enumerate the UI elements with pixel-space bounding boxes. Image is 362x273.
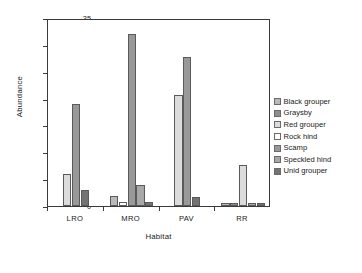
- x-tick-mark: [159, 207, 160, 211]
- bar: [221, 203, 229, 206]
- bar: [145, 202, 153, 206]
- x-tick-label: LRO: [52, 214, 98, 223]
- legend-label: Speckled hind: [284, 156, 332, 164]
- legend-label: Black grouper: [284, 98, 331, 106]
- legend-item: Red grouper: [274, 119, 362, 131]
- x-tick-mark: [214, 207, 215, 211]
- legend-item: Unid grouper: [274, 166, 362, 178]
- bar: [128, 34, 136, 206]
- chart-legend: Black grouperGraysbyRed grouperRock hind…: [274, 96, 362, 177]
- legend-item: Scamp: [274, 142, 362, 154]
- legend-label: Rock hind: [284, 133, 318, 141]
- bar: [72, 104, 80, 206]
- x-tick-label: RR: [219, 214, 265, 223]
- bar: [192, 197, 200, 206]
- x-tick-label: PAV: [163, 214, 209, 223]
- bar: [174, 95, 182, 206]
- legend-item: Speckled hind: [274, 154, 362, 166]
- x-axis-label: Habitat: [47, 232, 270, 241]
- legend-swatch-icon: [274, 145, 281, 152]
- legend-item: Black grouper: [274, 96, 362, 108]
- legend-swatch-icon: [274, 156, 281, 163]
- legend-item: Rock hind: [274, 131, 362, 143]
- legend-label: Red grouper: [284, 121, 326, 129]
- legend-label: Scamp: [284, 144, 308, 152]
- bar: [119, 202, 127, 206]
- bar: [136, 185, 144, 206]
- bar: [257, 203, 265, 206]
- legend-label: Graysby: [284, 109, 312, 117]
- bar: [230, 203, 238, 206]
- legend-swatch-icon: [274, 98, 281, 105]
- bar: [81, 190, 89, 206]
- legend-item: Graysby: [274, 108, 362, 120]
- plot-area: [47, 19, 270, 207]
- x-tick-mark: [103, 207, 104, 211]
- legend-swatch-icon: [274, 168, 281, 175]
- bar-chart-figure: Abundance 05101520253035 LROMROPAVRR Hab…: [0, 0, 362, 273]
- bars-layer: [48, 20, 269, 206]
- y-axis-label: Abundance: [15, 57, 24, 137]
- bar: [248, 203, 256, 206]
- x-tick-label: MRO: [108, 214, 154, 223]
- bar: [183, 57, 191, 206]
- bar: [110, 196, 118, 206]
- bar: [63, 174, 71, 206]
- legend-swatch-icon: [274, 121, 281, 128]
- legend-swatch-icon: [274, 110, 281, 117]
- bar: [239, 165, 247, 206]
- legend-label: Unid grouper: [284, 167, 328, 175]
- legend-swatch-icon: [274, 133, 281, 140]
- x-tick-mark: [47, 207, 48, 211]
